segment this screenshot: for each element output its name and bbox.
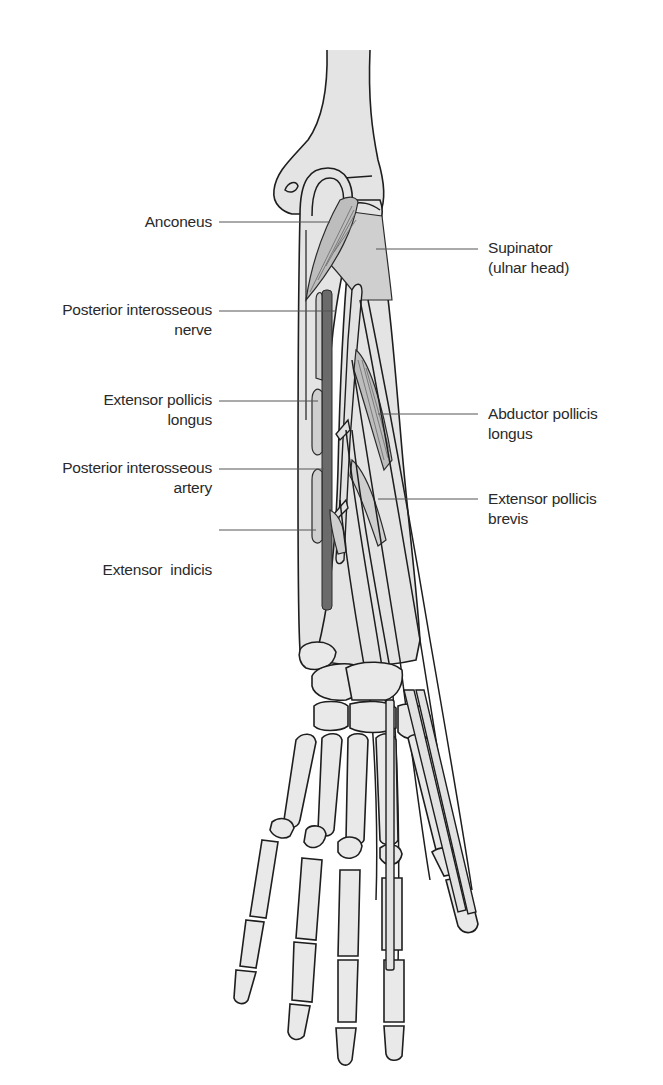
label-pia-line2: artery [62, 478, 212, 498]
label-epl-line1: Extensor pollicis [103, 390, 212, 410]
label-pin-line2: nerve [62, 320, 212, 340]
label-supinator-ulnar-head: Supinator (ulnar head) [488, 238, 569, 278]
label-extensor-pollicis-brevis: Extensor pollicis brevis [488, 489, 597, 529]
label-abductor-pollicis-longus: Abductor pollicis longus [488, 404, 597, 444]
middle-finger-bones [336, 734, 368, 1065]
label-apl-line2: longus [488, 424, 597, 444]
posterior-interosseous-nerve-shape [322, 290, 332, 610]
label-posterior-interosseous-artery: Posterior interosseous artery [62, 458, 212, 498]
forearm-anatomy-illustration [0, 0, 663, 1085]
label-epl-line2: longus [103, 410, 212, 430]
extensor-pollicis-longus-muscle [312, 389, 322, 455]
label-posterior-interosseous-nerve: Posterior interosseous nerve [62, 300, 212, 340]
label-extensor-indicis: Extensor indicis [103, 520, 212, 600]
label-extensor-pollicis-longus: Extensor pollicis longus [103, 390, 212, 430]
label-epb-line1: Extensor pollicis [488, 489, 597, 509]
label-anconeus: Anconeus [145, 212, 212, 232]
label-pin-line1: Posterior interosseous [62, 300, 212, 320]
extensor-indicis-muscle [312, 469, 322, 543]
label-pia-line1: Posterior interosseous [62, 458, 212, 478]
label-anconeus-line1: Anconeus [145, 212, 212, 232]
label-supinator-line2: (ulnar head) [488, 258, 569, 278]
label-supinator-line1: Supinator [488, 238, 569, 258]
label-apl-line1: Abductor pollicis [488, 404, 597, 424]
label-epb-line2: brevis [488, 509, 597, 529]
extensor-pollicis-longus-upper [316, 293, 322, 380]
label-ei-line1: Extensor indicis [103, 560, 212, 580]
